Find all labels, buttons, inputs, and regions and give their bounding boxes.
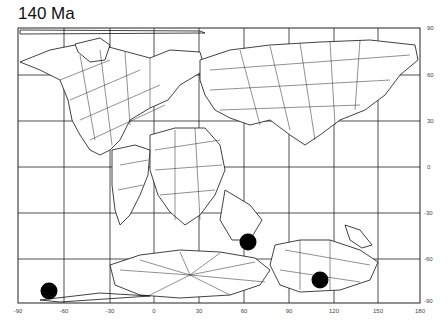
y-axis-labels: 90 60 30 0 -30 -60 -90 — [424, 25, 434, 304]
svg-text:-60: -60 — [424, 256, 433, 262]
svg-text:120: 120 — [329, 308, 340, 314]
marker-dot — [312, 272, 329, 289]
svg-text:60: 60 — [241, 308, 248, 314]
svg-text:-60: -60 — [60, 308, 69, 314]
svg-text:-90: -90 — [14, 308, 23, 314]
continents — [20, 30, 418, 302]
svg-text:30: 30 — [427, 118, 434, 124]
marker-dot — [240, 234, 257, 251]
svg-text:90: 90 — [427, 25, 434, 31]
x-axis-labels: -90 -60 -30 0 30 60 90 120 150 180 — [14, 308, 426, 314]
svg-text:0: 0 — [152, 308, 156, 314]
svg-text:150: 150 — [373, 308, 384, 314]
marker-dot — [41, 283, 58, 300]
svg-text:-30: -30 — [424, 210, 433, 216]
svg-text:180: 180 — [415, 308, 426, 314]
svg-text:-90: -90 — [424, 298, 433, 304]
svg-text:60: 60 — [427, 72, 434, 78]
svg-text:90: 90 — [286, 308, 293, 314]
svg-text:-30: -30 — [106, 308, 115, 314]
svg-text:0: 0 — [427, 164, 431, 170]
svg-text:30: 30 — [196, 308, 203, 314]
paleo-map: -90 -60 -30 0 30 60 90 120 150 180 90 60… — [0, 0, 448, 324]
